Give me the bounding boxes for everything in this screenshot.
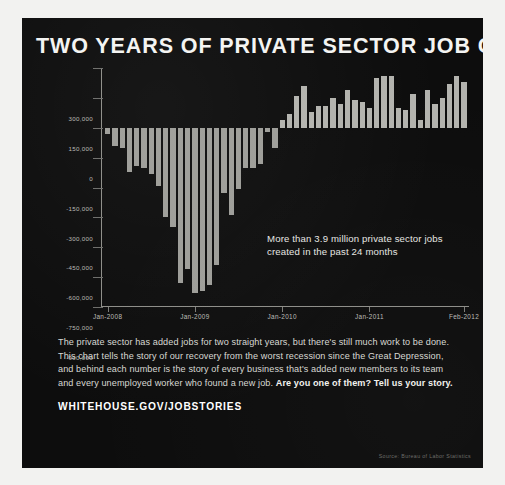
- chart-bar: [381, 76, 386, 128]
- chart-bar: [105, 128, 110, 134]
- x-axis-tick: [464, 307, 465, 312]
- y-axis-tick-label: -150,000: [66, 204, 93, 211]
- chart-bar: [127, 128, 132, 172]
- y-gridline: [93, 68, 103, 69]
- x-axis-tick-label: Jan-2008: [93, 313, 122, 320]
- chart-bar: [178, 128, 183, 283]
- y-axis-tick-label: 0: [89, 174, 93, 181]
- y-gridline: [93, 158, 103, 159]
- chart-bar: [280, 120, 285, 128]
- chart-bar: [214, 128, 219, 265]
- y-gridline: [93, 188, 103, 189]
- chart-bar: [440, 98, 445, 128]
- y-gridline: [93, 307, 103, 308]
- y-axis-tick-label: -750,000: [66, 324, 93, 331]
- chart-bar: [410, 94, 415, 128]
- cta-link[interactable]: WHITEHOUSE.GOV/JOBSTORIES: [58, 401, 454, 412]
- y-axis-labels: 300,000150,0000-150,000-300,000-450,000-…: [22, 114, 93, 353]
- chart-bar: [163, 128, 168, 218]
- chart-bar: [338, 104, 343, 128]
- chart-callout: More than 3.9 million private sector job…: [267, 232, 477, 258]
- y-axis-tick-label: 150,000: [69, 144, 93, 151]
- chart-bar: [112, 128, 117, 146]
- page-title: TWO YEARS OF PRIVATE SECTOR JOB GROWTH: [36, 34, 483, 59]
- chart-bar: [287, 114, 292, 128]
- chart-bar: [367, 108, 372, 128]
- chart-bar: [330, 98, 335, 128]
- y-axis-tick-label: -600,000: [66, 294, 93, 301]
- chart-bar: [134, 128, 139, 166]
- chart-bar: [309, 112, 314, 128]
- x-axis-tick-label: Jan-2010: [267, 313, 296, 320]
- y-gridline: [93, 217, 103, 218]
- x-axis-tick-label: Feb-2012: [449, 313, 479, 320]
- chart-bar: [258, 128, 263, 164]
- chart-bar: [185, 128, 190, 269]
- chart-bar: [403, 110, 408, 128]
- chart-bar: [345, 90, 350, 128]
- chart-bar: [418, 120, 423, 128]
- x-axis-tick: [108, 307, 109, 312]
- chart-bar: [425, 90, 430, 128]
- y-axis-tick-label: -450,000: [66, 264, 93, 271]
- x-axis-tick: [282, 307, 283, 312]
- chart-bar: [360, 102, 365, 128]
- chart-bar: [454, 76, 459, 128]
- chart-bar: [294, 96, 299, 128]
- job-growth-bar-chart: 300,000150,0000-150,000-300,000-450,000-…: [22, 64, 483, 316]
- x-axis-tick: [195, 307, 196, 312]
- chart-bar: [120, 128, 125, 148]
- chart-bar: [301, 86, 306, 128]
- x-axis-tick-label: Jan-2011: [355, 313, 384, 320]
- chart-bar: [229, 128, 234, 216]
- chart-bar: [207, 128, 212, 285]
- source-attribution: Source: Bureau of Labor Statistics: [379, 453, 471, 459]
- chart-bar: [396, 108, 401, 128]
- chart-bar: [316, 106, 321, 128]
- y-axis-tick-label: -300,000: [66, 234, 93, 241]
- chart-bar: [192, 128, 197, 293]
- chart-bar: [461, 82, 466, 128]
- chart-bar: [432, 104, 437, 128]
- chart-bar: [170, 128, 175, 228]
- chart-bar: [389, 76, 394, 128]
- x-axis-tick-label: Jan-2009: [180, 313, 209, 320]
- x-axis-line: [101, 306, 469, 307]
- chart-bar: [200, 128, 205, 291]
- y-gridline: [93, 98, 103, 99]
- x-axis-tick: [369, 307, 370, 312]
- infographic-panel: TWO YEARS OF PRIVATE SECTOR JOB GROWTH 3…: [22, 18, 483, 468]
- y-gridline: [93, 277, 103, 278]
- chart-bar: [272, 128, 277, 148]
- chart-bar: [221, 128, 226, 194]
- y-gridline: [93, 128, 103, 129]
- paragraph-text: The private sector has added jobs for tw…: [58, 336, 454, 390]
- chart-bar: [447, 84, 452, 128]
- chart-bar: [236, 128, 241, 190]
- chart-bar: [265, 128, 270, 132]
- y-axis-tick-label: 300,000: [69, 115, 93, 122]
- body-copy: The private sector has added jobs for tw…: [58, 336, 454, 412]
- chart-bar: [141, 128, 146, 168]
- chart-bar: [374, 78, 379, 128]
- chart-bar: [352, 100, 357, 128]
- chart-bar: [250, 128, 255, 168]
- chart-bar: [323, 106, 328, 128]
- chart-bar: [149, 128, 154, 174]
- chart-bar: [243, 128, 248, 168]
- y-gridline: [93, 247, 103, 248]
- chart-bar: [156, 128, 161, 186]
- paragraph-emphasis: Are you one of them? Tell us your story.: [276, 378, 453, 388]
- chart-plot-area: Jan-2008Jan-2009Jan-2010Jan-2011Feb-2012: [101, 68, 469, 307]
